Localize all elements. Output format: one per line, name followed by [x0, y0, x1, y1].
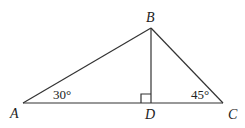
- label-b: B: [146, 10, 155, 25]
- segment-bc: [151, 28, 223, 103]
- label-d: D: [144, 107, 155, 122]
- label-c: C: [228, 107, 238, 122]
- right-angle-marker: [141, 94, 151, 103]
- triangle-diagram: B A D C 30° 45°: [0, 0, 245, 128]
- label-a: A: [9, 106, 19, 121]
- angle-a-label: 30°: [53, 87, 71, 102]
- angle-c-label: 45°: [191, 87, 209, 102]
- segment-ab: [23, 28, 151, 103]
